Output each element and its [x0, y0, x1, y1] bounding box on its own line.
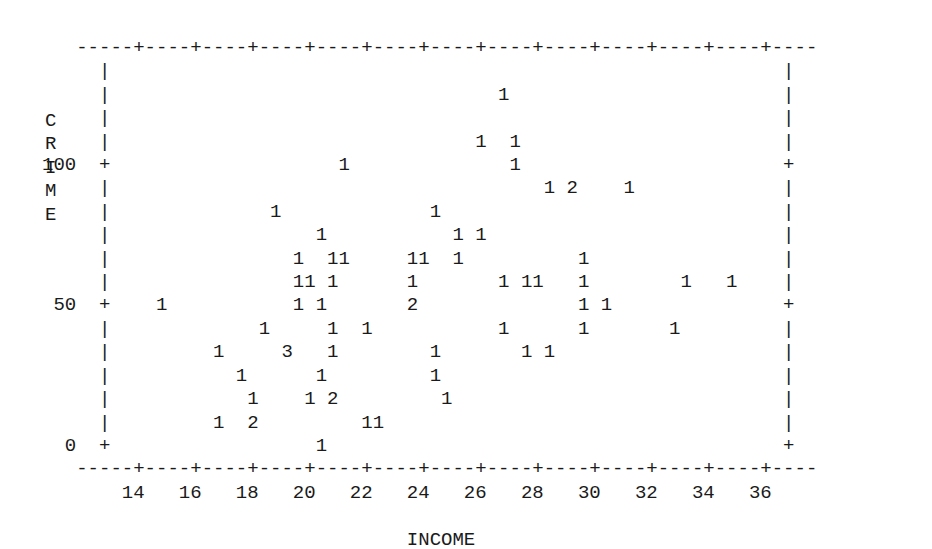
ascii-plot-canvas: -----+----+----+----+----+----+----+----… [42, 37, 817, 549]
